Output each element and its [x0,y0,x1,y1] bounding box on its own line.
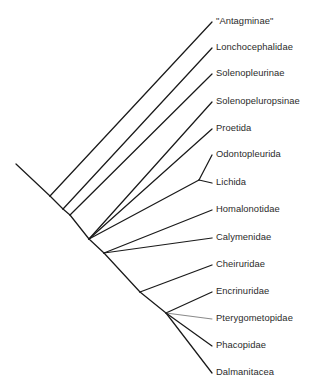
branch-node-f-to-cheiruridae [140,265,212,292]
branch-node-d-to-solenopeluropsinae [89,102,212,239]
taxon-label-calymenidae: Calymenidae [216,232,271,242]
taxon-label-phacopidae: Phacopidae [216,340,266,350]
branch-node-poly-to-dalmanitacea [166,313,212,373]
taxon-label-antagminae: "Antagminae" [216,16,273,26]
branch-node-e-to-node-f [104,253,140,292]
branch-node-odon-to-odontopleurida [199,155,212,180]
branch-node-f-to-node-poly [140,292,166,313]
taxon-label-encrinuridae: Encrinuridae [216,286,269,296]
branch-node-d-to-proetida [89,129,212,239]
taxon-label-homalonotidae: Homalonotidae [216,204,280,214]
branch-node-e-to-calymenidae [104,238,212,253]
branch-node-c-to-node-d [70,215,89,239]
branch-node-e-to-homalonotidae [104,210,212,253]
taxon-label-odontopleurida: Odontopleurida [216,149,281,159]
branch-node-odon-to-lichida [199,180,212,183]
branch-node-c-to-solenopleurinae [70,74,212,215]
branch-node-d-to-node-odon [89,180,199,239]
taxon-label-proetida: Proetida [216,123,251,133]
branch-root-to-node-a [16,164,50,196]
taxon-label-lichida: Lichida [216,177,246,187]
cladogram-branches [0,0,319,390]
taxon-label-solenopeluropsinae: Solenopeluropsinae [216,96,300,106]
branch-layer [16,22,212,373]
taxon-label-pterygometopidae: Pterygometopidae [216,313,293,323]
taxon-label-dalmanitacea: Dalmanitacea [216,367,274,377]
branch-node-a-to-node-b [50,196,63,209]
taxon-label-solenopleurinae: Solenopleurinae [216,68,285,78]
branch-node-d-to-node-e [89,239,104,253]
cladogram-figure: "Antagminae"LonchocephalidaeSolenopleuri… [0,0,319,390]
branch-node-poly-to-encrinuridae [166,292,212,313]
branch-node-a-to-antagminae [50,22,212,196]
branch-node-b-to-node-c [63,209,70,215]
taxon-label-cheiruridae: Cheiruridae [216,259,265,269]
taxon-label-lonchocephalidae: Lonchocephalidae [216,42,293,52]
